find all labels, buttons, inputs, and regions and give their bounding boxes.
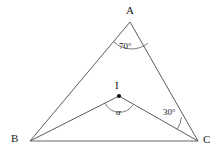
segment-AC	[130, 22, 198, 141]
vertex-label-i: I	[115, 80, 119, 91]
segment-BI	[30, 96, 119, 141]
angle-label-at-c: 30°	[163, 108, 176, 117]
vertex-label-c: C	[203, 134, 211, 145]
vertex-label-b: B	[11, 133, 19, 144]
point-marker-I	[117, 94, 121, 98]
angle-label-at-a: 70°	[119, 42, 132, 51]
segment-IC	[119, 96, 198, 141]
geometry-canvas	[0, 0, 219, 155]
angle-label-at-i: α	[116, 108, 121, 117]
vertex-label-a: A	[126, 5, 134, 16]
angle-arc-C	[177, 117, 181, 129]
geometry-figure: A B C I 70° 30° α	[0, 0, 219, 155]
